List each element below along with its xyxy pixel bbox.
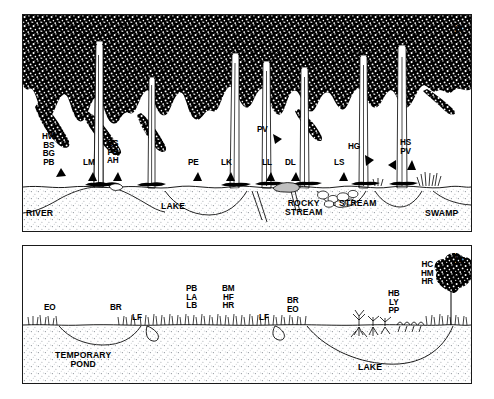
label-lm: LM (83, 159, 95, 168)
habitat-temporary-pond: TEMPORARY POND (55, 351, 111, 369)
habitat-lake: LAKE (161, 202, 185, 211)
swamp-grass (417, 172, 441, 186)
label-bm-hf-hr: BM HF HR (222, 285, 235, 311)
panel-a-letter: a (455, 19, 463, 36)
habitat-rocky-stream: ROCKY STREAM (285, 199, 322, 217)
label-br-eo: BR EO (287, 297, 299, 314)
canopy-lobe-farright (423, 89, 455, 115)
panel-a: a (22, 14, 472, 232)
label-dl: DL (285, 159, 296, 168)
label-br: BR (110, 304, 122, 313)
label-bs-pe-ah: BS PE AH (107, 140, 119, 166)
grass-band-main (140, 314, 306, 325)
label-lf-right: LF (259, 314, 269, 323)
label-lf-left: LF (132, 314, 142, 323)
grass-band-right (426, 314, 467, 325)
grass-band-left (28, 315, 57, 325)
panel-a-illustration (23, 15, 471, 231)
label-ll: LL (262, 159, 272, 168)
label-hb-ly-pp: HB LY PP (388, 290, 400, 316)
label-lk: LK (221, 159, 232, 168)
label-eo: EO (44, 304, 56, 313)
label-pb-la-lb: PB LA LB (186, 285, 197, 311)
label-hw-bs-bg-pb: HW BS BG PB (42, 133, 55, 167)
figure-root: a HW BS BG PB (0, 0, 494, 399)
label-hg: HG (348, 143, 360, 152)
label-ls: LS (334, 159, 344, 168)
woody-debris-lm (109, 184, 123, 191)
panel-b-letter: b (455, 250, 463, 267)
habitat-river: RIVER (26, 209, 53, 218)
habitat-stream: STREAM (339, 199, 376, 208)
habitat-lake-b: LAKE (358, 363, 382, 372)
label-hs-pv: HS PV (400, 139, 411, 156)
label-hc-hm-hr: HC HM HR (421, 261, 434, 287)
label-pv: PV (257, 126, 268, 135)
soil-body (23, 188, 471, 231)
habitat-swamp: SWAMP (425, 209, 458, 218)
label-pe: PE (188, 159, 199, 168)
